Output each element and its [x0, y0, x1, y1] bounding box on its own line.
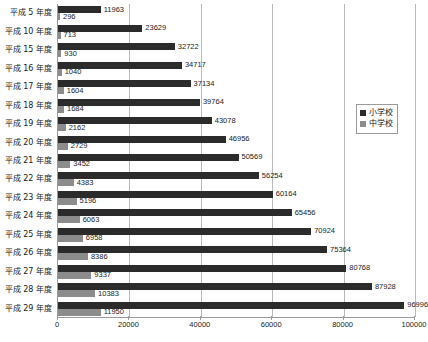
legend-label: 中学校	[369, 119, 393, 129]
bar-item: 3452	[58, 161, 414, 168]
bar-value-label: 930	[64, 50, 77, 58]
bar-item: 34717	[58, 62, 414, 69]
bar-value-label: 10383	[98, 290, 119, 298]
bar-chugakko	[58, 179, 74, 186]
y-axis-label: 平成 28 年度	[5, 285, 52, 295]
bar-chugakko	[58, 50, 61, 57]
x-tick-label: 40000	[189, 320, 210, 329]
bar-group: 505693452	[58, 152, 414, 170]
bar-chugakko	[58, 143, 68, 150]
y-axis-label: 平成 10 年度	[5, 27, 52, 37]
bar-item: 50569	[58, 154, 414, 161]
y-axis-label: 平成 20 年度	[5, 138, 52, 148]
chart-legend: 小学校中学校	[356, 104, 398, 134]
bar-chugakko	[58, 198, 77, 205]
bar-item: 46956	[58, 136, 414, 143]
bar-group: 23629713	[58, 22, 414, 40]
bar-chugakko	[58, 13, 60, 20]
bar-item: 80768	[58, 265, 414, 272]
y-axis-label: 平成 18 年度	[5, 101, 52, 111]
plot-area: 1196329623629713327229303471710403713416…	[57, 4, 414, 318]
bar-chugakko	[58, 235, 83, 242]
bar-item: 296	[58, 13, 414, 20]
bar-group: 371341604	[58, 78, 414, 96]
legend-item[interactable]: 中学校	[360, 119, 393, 129]
bar-item: 2729	[58, 143, 414, 150]
y-axis-label: 平成 21 年度	[5, 156, 52, 166]
y-axis-label: 平成 5 年度	[10, 8, 52, 18]
bar-group: 32722930	[58, 41, 414, 59]
bar-value-label: 2162	[69, 124, 86, 132]
bar-item: 6063	[58, 216, 414, 223]
bar-chugakko	[58, 290, 95, 297]
legend-swatch-icon	[360, 121, 366, 127]
bar-chugakko	[58, 69, 62, 76]
x-tick-label: 100000	[401, 320, 426, 329]
legend-item[interactable]: 小学校	[360, 108, 393, 118]
bar-item: 4383	[58, 179, 414, 186]
bar-item: 11963	[58, 6, 414, 13]
bar-item: 6958	[58, 235, 414, 242]
bar-rows: 1196329623629713327229303471710403713416…	[58, 4, 414, 317]
bar-chugakko	[58, 309, 101, 316]
bar-chugakko	[58, 216, 80, 223]
bar-item: 11950	[58, 309, 414, 316]
bar-item: 37134	[58, 80, 414, 87]
bar-item: 70924	[58, 228, 414, 235]
bar-item: 65456	[58, 209, 414, 216]
y-axis-label: 平成 23 年度	[5, 193, 52, 203]
bar-value-label: 713	[64, 31, 77, 39]
bar-value-label: 6958	[86, 234, 103, 242]
bar-value-label: 3452	[73, 160, 90, 168]
bar-chugakko	[58, 32, 61, 39]
bar-item: 56254	[58, 172, 414, 179]
y-axis-label: 平成 19 年度	[5, 119, 52, 129]
y-axis-label: 平成 25 年度	[5, 230, 52, 240]
bar-value-label: 11950	[104, 308, 124, 316]
bar-group: 753648386	[58, 244, 414, 262]
bar-item: 713	[58, 32, 414, 39]
bar-group: 562544383	[58, 170, 414, 188]
bar-group: 654566063	[58, 207, 414, 225]
bar-item: 75364	[58, 246, 414, 253]
bar-group: 347171040	[58, 59, 414, 77]
bar-group: 807689337	[58, 263, 414, 281]
y-axis-label: 平成 16 年度	[5, 64, 52, 74]
bar-item: 930	[58, 50, 414, 57]
y-axis-label: 平成 17 年度	[5, 82, 52, 92]
bar-value-label: 2729	[71, 142, 88, 150]
gridline-100000	[415, 4, 416, 317]
bar-group: 9699611950	[58, 300, 414, 318]
bar-chugakko	[58, 106, 64, 113]
x-tick-label: 80000	[332, 320, 353, 329]
x-tick-label: 60000	[261, 320, 282, 329]
bar-chugakko	[58, 124, 66, 131]
bar-value-label: 1040	[65, 68, 82, 76]
bar-item: 8386	[58, 253, 414, 260]
bar-item: 5196	[58, 198, 414, 205]
x-axis-tick-labels: 020000400006000080000100000	[57, 320, 414, 336]
bar-item: 9337	[58, 272, 414, 279]
bar-item: 1604	[58, 87, 414, 94]
y-axis-category-labels: 平成 5 年度平成 10 年度平成 15 年度平成 16 年度平成 17 年度平…	[0, 4, 55, 318]
bar-group: 709246958	[58, 226, 414, 244]
bar-value-label: 8386	[91, 253, 108, 261]
bar-group: 11963296	[58, 4, 414, 22]
bar-chugakko	[58, 272, 91, 279]
bar-group: 8792810383	[58, 281, 414, 299]
y-axis-label: 平成 15 年度	[5, 45, 52, 55]
y-axis-label: 平成 27 年度	[5, 267, 52, 277]
bar-item: 23629	[58, 25, 414, 32]
legend-swatch-icon	[360, 110, 366, 116]
y-axis-label: 平成 26 年度	[5, 248, 52, 258]
bar-value-label: 1604	[67, 87, 84, 95]
bar-item: 1040	[58, 69, 414, 76]
bar-value-label: 296	[63, 13, 76, 21]
bar-group: 469562729	[58, 133, 414, 151]
bar-chugakko	[58, 87, 64, 94]
y-axis-label: 平成 22 年度	[5, 174, 52, 184]
bar-value-label: 1684	[67, 105, 84, 113]
x-tick-label: 20000	[118, 320, 139, 329]
bar-item: 32722	[58, 43, 414, 50]
